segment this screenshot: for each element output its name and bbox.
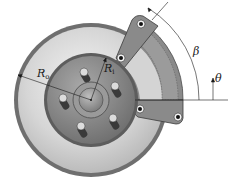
label-theta: θ	[215, 72, 222, 85]
label-beta: β	[192, 45, 199, 58]
disc-brake-diagram: Ro Ri β θ	[0, 0, 234, 189]
arrowhead-icon	[148, 8, 151, 12]
pad-edge-extension	[152, 2, 168, 20]
bolt-hole-icon	[139, 22, 143, 26]
bolt-hole-icon	[176, 115, 180, 119]
bolt-hole-icon	[138, 107, 142, 111]
bolt-hole-icon	[119, 56, 123, 60]
